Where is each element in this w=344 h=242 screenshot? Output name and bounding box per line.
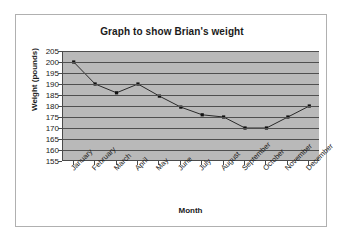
gridline — [63, 139, 319, 140]
gridline — [63, 106, 319, 107]
y-tick-mark — [58, 51, 62, 52]
y-axis-tick-labels: 205200195190185180175170165160155 — [26, 51, 59, 161]
y-tick-mark — [58, 139, 62, 140]
x-tick-mark — [158, 161, 159, 165]
y-tick-mark — [58, 161, 62, 162]
y-tick-label: 185 — [46, 91, 59, 100]
y-tick-mark — [58, 117, 62, 118]
y-tick-mark — [58, 128, 62, 129]
x-tick-mark — [223, 161, 224, 165]
y-tick-label: 170 — [46, 124, 59, 133]
y-tick-label: 200 — [46, 58, 59, 67]
x-tick-mark — [308, 161, 309, 165]
y-tick-label: 175 — [46, 113, 59, 122]
x-tick-mark — [116, 161, 117, 165]
x-tick-mark — [265, 161, 266, 165]
y-tick-label: 195 — [46, 69, 59, 78]
x-tick-mark — [137, 161, 138, 165]
y-tick-mark — [58, 150, 62, 151]
x-tick-mark — [287, 161, 288, 165]
data-point-marker — [115, 91, 118, 94]
y-tick-label: 155 — [46, 157, 59, 166]
x-axis-label: Month — [62, 206, 319, 215]
y-tick-mark — [58, 106, 62, 107]
chart-frame: Graph to show Brian's weight Weight (pou… — [15, 14, 327, 227]
gridline — [63, 95, 319, 96]
y-tick-mark — [58, 84, 62, 85]
y-tick-mark — [58, 62, 62, 63]
gridline — [63, 84, 319, 85]
plot-area — [62, 51, 319, 161]
gridline — [63, 73, 319, 74]
y-tick-label: 205 — [46, 47, 59, 56]
x-tick-mark — [201, 161, 202, 165]
x-tick-mark — [94, 161, 95, 165]
y-tick-label: 165 — [46, 135, 59, 144]
chart-title: Graph to show Brian's weight — [16, 26, 328, 37]
gridline — [63, 62, 319, 63]
gridline — [63, 117, 319, 118]
data-point-marker — [201, 113, 204, 116]
y-tick-label: 190 — [46, 80, 59, 89]
y-tick-mark — [58, 73, 62, 74]
x-tick-mark — [73, 161, 74, 165]
gridline — [63, 128, 319, 129]
gridline — [63, 51, 319, 52]
y-tick-mark — [58, 95, 62, 96]
y-tick-label: 180 — [46, 102, 59, 111]
x-tick-mark — [244, 161, 245, 165]
x-tick-mark — [180, 161, 181, 165]
y-tick-label: 160 — [46, 146, 59, 155]
